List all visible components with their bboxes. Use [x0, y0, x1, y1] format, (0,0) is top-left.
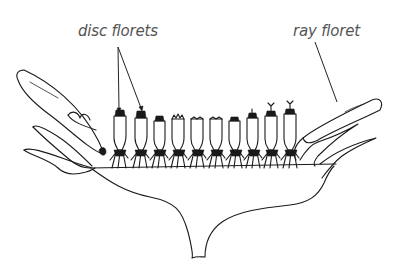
flower-head-diagram: disc florets ray floret	[0, 0, 414, 272]
disc-florets	[110, 101, 299, 168]
disc-floret	[169, 114, 187, 168]
flower-illustration	[0, 0, 414, 272]
pointer-disc-floret-2	[118, 47, 141, 108]
left-bracts	[17, 70, 106, 174]
disc-floret	[188, 117, 206, 168]
disc-florets-label: disc florets	[78, 22, 158, 40]
disc-floret	[244, 109, 262, 168]
pointer-disc-floret-1	[118, 47, 119, 108]
disc-floret	[281, 101, 299, 168]
disc-floret	[150, 116, 168, 168]
label-pointers	[117, 42, 337, 112]
disc-floret	[131, 111, 149, 168]
ray-floret-label: ray floret	[293, 22, 360, 40]
disc-floret	[110, 110, 128, 168]
disc-floret	[207, 117, 225, 168]
disc-floret	[226, 117, 244, 168]
receptacle	[90, 164, 336, 258]
disc-floret	[262, 103, 280, 168]
pointer-ray-floret	[315, 42, 337, 102]
right-bracts	[294, 99, 381, 178]
